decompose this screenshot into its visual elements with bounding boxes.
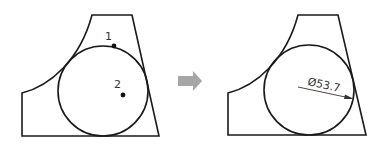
diameter-dimension-text: Ø53.7 (306, 75, 341, 95)
dimension-arrowhead-icon (344, 95, 354, 100)
diagram-canvas: 1 2 Ø53.7 (0, 0, 389, 144)
transition-arrow-icon (178, 71, 202, 91)
point-1-label: 1 (105, 30, 112, 43)
inscribed-circle-before (58, 46, 148, 136)
inscribed-circle-after (264, 45, 354, 135)
before-panel: 1 2 (22, 15, 159, 136)
point-1-marker (112, 44, 117, 49)
after-panel: Ø53.7 (228, 15, 366, 135)
point-2-marker (121, 93, 126, 98)
point-2-label: 2 (114, 78, 121, 91)
